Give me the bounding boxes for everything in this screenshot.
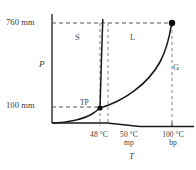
phase-diagram-figure: 760 mm 100 mm S L G TP 48 °C 50 °C mp 10…	[0, 0, 196, 170]
fusion-curve	[100, 20, 103, 109]
y-axis-tick-label-760: 760 mm	[6, 18, 35, 27]
triple-point-marker	[97, 105, 102, 110]
region-label-solid: S	[75, 33, 80, 42]
x-axis-line	[52, 123, 194, 127]
vaporization-curve	[100, 24, 172, 109]
x-axis-name: T	[129, 152, 134, 161]
boiling-point-marker	[169, 20, 175, 26]
y-axis-name: P	[39, 60, 45, 69]
x-axis-tick-sub-bp: bp	[156, 139, 190, 147]
x-axis-tick-sub-mp: mp	[113, 139, 145, 147]
sublimation-curve	[53, 108, 100, 123]
x-axis-tick-label-100c: 100 °C bp	[156, 131, 190, 147]
region-label-liquid: L	[130, 33, 135, 42]
x-axis-tick-value-48c: 48 °C	[90, 130, 108, 139]
region-label-gas: G	[173, 63, 179, 72]
y-axis-tick-label-100: 100 mm	[6, 101, 35, 110]
triple-point-label: TP	[80, 99, 89, 107]
x-axis-tick-label-48c: 48 °C	[84, 131, 114, 139]
x-axis-tick-label-50c: 50 °C mp	[113, 131, 145, 147]
